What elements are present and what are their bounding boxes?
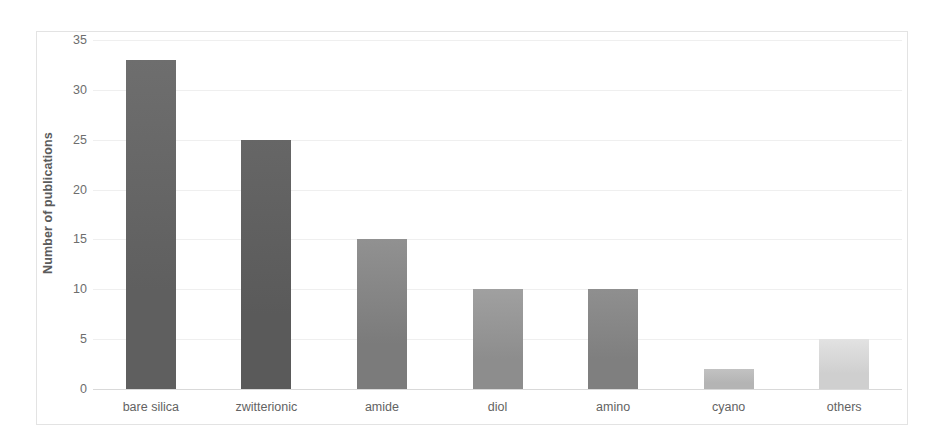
- x-axis-tick-labels: bare silicazwitterionicamidediolaminocya…: [93, 0, 902, 446]
- y-tick-label-15: 15: [53, 232, 87, 246]
- y-tick-label-5: 5: [53, 332, 87, 346]
- x-tick-label-amino: amino: [596, 400, 630, 414]
- x-tick-label-amide: amide: [365, 400, 399, 414]
- bar-chart-figure: Number of publications 05101520253035 ba…: [0, 0, 946, 446]
- x-tick-label-zwitterionic: zwitterionic: [235, 400, 297, 414]
- y-axis-tick-labels: 05101520253035: [47, 40, 87, 389]
- y-tick-label-30: 30: [53, 83, 87, 97]
- x-tick-label-bare-silica: bare silica: [123, 400, 179, 414]
- x-tick-label-diol: diol: [488, 400, 507, 414]
- y-tick-label-0: 0: [53, 382, 87, 396]
- y-tick-label-25: 25: [53, 133, 87, 147]
- x-tick-label-cyano: cyano: [712, 400, 745, 414]
- x-tick-label-others: others: [827, 400, 862, 414]
- y-tick-label-10: 10: [53, 282, 87, 296]
- y-tick-label-20: 20: [53, 183, 87, 197]
- y-tick-label-35: 35: [53, 33, 87, 47]
